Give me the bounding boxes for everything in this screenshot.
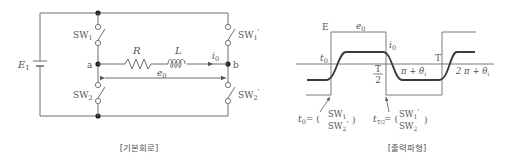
svg-text:SW1': SW1' <box>399 108 419 120</box>
phase-pi-label: π + θi <box>400 66 426 77</box>
current-label: i0 <box>212 51 219 63</box>
circuit-caption: [기본회로] <box>120 143 159 153</box>
switch-sw2-icon <box>95 82 105 116</box>
full-inverter-diagram: E1 SW1 SW2 a SW1' <box>0 0 507 162</box>
inductor-label: L <box>174 45 182 56</box>
waveform-caption: [출력파형] <box>388 143 427 153</box>
top-rail <box>40 13 228 24</box>
svg-text:): ) <box>424 115 428 125</box>
basic-circuit: E1 SW1 SW2 a SW1' <box>17 10 260 153</box>
switch-sw1-icon <box>95 24 105 82</box>
voltage-wave-label: e0 <box>356 21 365 33</box>
svg-text:): ) <box>352 115 356 125</box>
phase-2pi-label: 2 π + θi <box>455 66 489 77</box>
node-b-label: b <box>233 60 239 70</box>
left-rail-bottom <box>40 70 228 116</box>
half-period-denominator: 2 <box>375 75 381 85</box>
current-waveform <box>307 52 475 80</box>
battery-icon <box>33 58 47 70</box>
node-a-label: a <box>87 60 93 70</box>
switch-label-sw1: SW1 <box>73 30 93 42</box>
current-wave-label: i0 <box>389 40 396 52</box>
annotation-t-half-switches: t T/2 = ( SW1' SW2 ) <box>373 108 428 132</box>
svg-text:t0= (: t0= ( <box>298 114 320 126</box>
switch-sw1-prime-icon <box>225 24 235 82</box>
resistor-label: R <box>132 45 141 56</box>
t0-label: t0 <box>320 53 328 65</box>
svg-text:= (: = ( <box>384 114 398 124</box>
output-waveform: E e0 i0 t0 T 2 π + θi T 2 π + θi t0= ( S… <box>296 21 494 153</box>
inductor-icon <box>168 60 185 68</box>
half-period-numerator: T <box>375 64 381 74</box>
svg-text:SW1: SW1 <box>328 109 346 120</box>
svg-text:SW2': SW2' <box>328 120 348 132</box>
resistor-icon <box>125 59 151 69</box>
switch-label-sw2: SW2 <box>73 90 93 102</box>
switch-sw2-prime-icon <box>225 82 235 103</box>
switch-label-sw1-prime: SW1' <box>238 28 260 42</box>
annotation-arrow-t-half <box>386 97 389 112</box>
annotation-t0-switches: t0= ( SW1 SW2' ) <box>298 109 356 132</box>
period-label: T <box>435 53 441 63</box>
source-label: E1 <box>17 59 30 72</box>
svg-text:SW2: SW2 <box>399 121 418 132</box>
amplitude-label: E <box>322 22 329 32</box>
switch-label-sw2-prime: SW2' <box>238 88 260 102</box>
